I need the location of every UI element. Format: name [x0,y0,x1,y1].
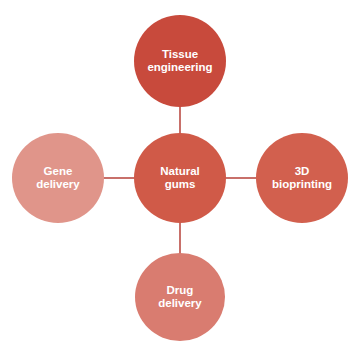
node-label: Gene delivery [36,165,79,191]
node-gene-delivery: Gene delivery [12,133,104,223]
connector-bottom [179,222,181,254]
node-label-line2: delivery [158,297,201,310]
node-drug-delivery: Drug delivery [135,253,225,341]
node-natural-gums-center: Natural gums [134,133,226,223]
node-label: Drug delivery [158,284,201,310]
node-label-line1: 3D [272,165,332,178]
node-label-line2: bioprinting [272,178,332,191]
node-label-line1: Natural [160,165,200,178]
diagram-canvas: Tissue engineering Natural gums 3D biopr… [0,0,361,352]
node-label-line2: gums [160,178,200,191]
node-label-line1: Tissue [147,48,212,61]
connector-left [103,177,135,179]
node-label-line2: engineering [147,61,212,74]
node-label: Natural gums [160,165,200,191]
node-3d-bioprinting: 3D bioprinting [256,133,348,223]
node-label-line2: delivery [36,178,79,191]
node-label: Tissue engineering [147,48,212,74]
connector-top [179,106,181,136]
node-label-line1: Gene [36,165,79,178]
node-label-line1: Drug [158,284,201,297]
node-label: 3D bioprinting [272,165,332,191]
connector-right [225,177,257,179]
node-tissue-engineering: Tissue engineering [134,15,226,107]
